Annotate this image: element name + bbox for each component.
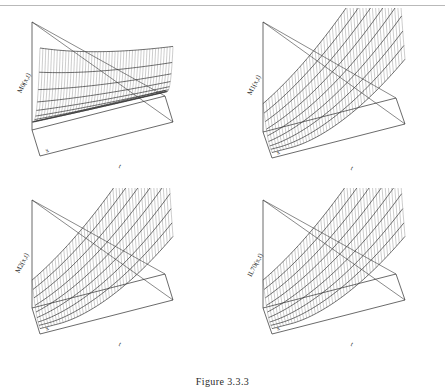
z-axis-label: M1(x,t) <box>246 73 263 96</box>
surface-plot-panel: M2(x,t) x t <box>0 188 223 370</box>
x-axis-label: x <box>44 146 51 154</box>
z-axis-label: IL70(x,t) <box>246 251 265 278</box>
x-axis-label: x <box>275 148 282 156</box>
x-axis-label: x <box>44 324 51 332</box>
panel-grid: M0(x,t) x t M1(x,t) x t M2(x,t) <box>0 8 445 368</box>
page-top-rule <box>0 5 445 6</box>
surface-plot-panel: M1(x,t) x t <box>222 8 445 190</box>
surface-plot-panel: IL70(x,t) x t <box>222 188 445 370</box>
figure-page: M0(x,t) x t M1(x,t) x t M2(x,t) <box>0 0 445 388</box>
t-axis-label: t <box>350 340 355 347</box>
figure-caption: Figure 3.3.3 <box>0 374 445 388</box>
t-axis-label: t <box>118 162 123 169</box>
x-axis-label: x <box>275 324 282 332</box>
t-axis-label: t <box>350 164 355 171</box>
surface-plot-panel: M0(x,t) x t <box>0 8 223 190</box>
t-axis-label: t <box>118 340 123 347</box>
z-axis-label: M0(x,t) <box>16 71 33 94</box>
z-axis-label: M2(x,t) <box>14 251 31 274</box>
